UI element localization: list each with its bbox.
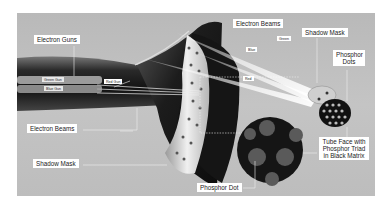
label-phosphor-dots: Phosphor Dots (333, 50, 365, 66)
label-electron-beams-left: Electron Beams (27, 124, 77, 133)
label-beam-green: Green (277, 36, 291, 41)
label-beam-red: Red (243, 76, 254, 81)
label-electron-guns: Electron Guns (34, 35, 80, 44)
label-phosphor-dot: Phosphor Dot (197, 183, 242, 192)
label-tube-face: Tube Face with Phosphor Triad in Black M… (319, 137, 369, 160)
diagram-panel: Electron Guns Green Gun Blue Gun Red Gun… (17, 13, 375, 196)
label-beam-blue: Blue (246, 47, 257, 52)
label-blue-gun: Blue Gun (44, 86, 63, 91)
label-shadow-mask-left: Shadow Mask (33, 159, 79, 168)
label-electron-beams-right: Electron Beams (233, 19, 283, 28)
label-shadow-mask-right: Shadow Mask (302, 28, 348, 37)
label-red-gun: Red Gun (104, 79, 122, 84)
label-green-gun: Green Gun (42, 77, 64, 82)
